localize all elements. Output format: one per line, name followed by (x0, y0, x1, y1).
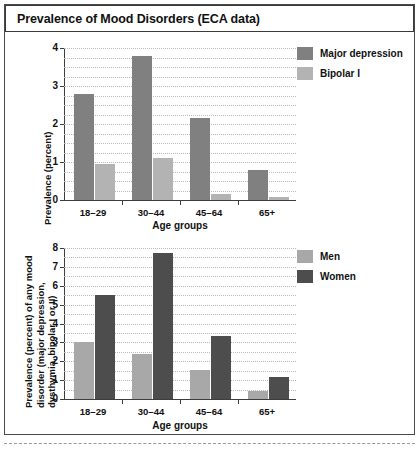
legend-chart-1: MenWomen (297, 250, 356, 290)
legend-chart-0: Major depressionBipolar I (297, 47, 403, 87)
figure-title-bar: Prevalence of Mood Disorders (ECA data) (5, 5, 414, 32)
y-tick-mark (60, 248, 64, 249)
bar (269, 197, 289, 200)
gridline (64, 124, 296, 125)
legend-label: Bipolar I (320, 68, 360, 79)
y-tick-label: 2 (42, 118, 58, 129)
gridline (64, 48, 296, 49)
legend-item: Major depression (297, 47, 403, 60)
x-tick-mark (122, 400, 123, 404)
x-category-label: 18–29 (63, 406, 123, 417)
y-tick-label: 3 (42, 336, 58, 347)
y-tick-label: 8 (42, 242, 58, 253)
y-tick-label: 1 (42, 374, 58, 385)
x-axis-title-chart-1: Age groups (64, 420, 296, 431)
y-tick-mark (60, 48, 64, 49)
x-tick-mark (180, 201, 181, 205)
y-tick-mark (60, 324, 64, 325)
y-axis-title-chart-0: Prevalence (percent) (42, 132, 54, 225)
y-tick-mark (60, 342, 64, 343)
y-tick-mark (60, 162, 64, 163)
legend-label: Major depression (320, 48, 403, 59)
x-category-label: 45–64 (179, 207, 239, 218)
legend-item: Bipolar I (297, 67, 403, 80)
y-tick-mark (60, 200, 64, 201)
y-tick-mark (60, 380, 64, 381)
x-category-label: 65+ (237, 207, 297, 218)
legend-swatch-icon (297, 47, 313, 60)
bar (269, 377, 289, 399)
plot-area-chart-1 (64, 248, 296, 400)
y-tick-label: 7 (42, 261, 58, 272)
y-tick-label: 1 (42, 156, 58, 167)
page-title: Prevalence of Mood Disorders (ECA data) (17, 12, 260, 26)
y-tick-label: 4 (42, 318, 58, 329)
y-tick-mark (60, 124, 64, 125)
bar (153, 253, 173, 399)
bar (132, 354, 152, 399)
y-tick-mark (60, 399, 64, 400)
legend-swatch-icon (297, 270, 313, 283)
bar (248, 391, 268, 399)
bar (95, 164, 115, 200)
y-tick-mark (60, 286, 64, 287)
gridline (64, 267, 296, 268)
gridline (64, 134, 296, 135)
x-category-label: 65+ (237, 406, 297, 417)
x-category-label: 18–29 (63, 207, 123, 218)
y-tick-mark (60, 361, 64, 362)
bar (211, 336, 231, 399)
gridline (64, 153, 296, 154)
x-axis-title-chart-0: Age groups (64, 220, 296, 231)
legend-item: Women (297, 270, 356, 283)
bar (153, 158, 173, 200)
gridline (64, 162, 296, 163)
legend-label: Women (320, 271, 356, 282)
gridline (64, 115, 296, 116)
bar (132, 56, 152, 200)
gridline (64, 248, 296, 249)
bar (190, 118, 210, 200)
y-tick-label: 5 (42, 299, 58, 310)
y-tick-label: 0 (42, 393, 58, 404)
x-tick-mark (122, 201, 123, 205)
x-category-label: 30–44 (121, 406, 181, 417)
y-tick-label: 4 (42, 42, 58, 53)
x-tick-mark (238, 400, 239, 404)
plot-area-chart-0 (64, 48, 296, 201)
bottom-divider (4, 443, 415, 444)
y-tick-label: 3 (42, 80, 58, 91)
y-tick-label: 6 (42, 280, 58, 291)
legend-swatch-icon (297, 250, 313, 263)
x-category-label: 30–44 (121, 207, 181, 218)
bar (74, 94, 94, 200)
gridline (64, 77, 296, 78)
bar (190, 370, 210, 399)
legend-swatch-icon (297, 67, 313, 80)
x-tick-mark (238, 201, 239, 205)
x-tick-mark (180, 400, 181, 404)
gridline (64, 67, 296, 68)
y-tick-mark (60, 305, 64, 306)
bar (248, 170, 268, 200)
y-tick-label: 2 (42, 355, 58, 366)
y-tick-label: 0 (42, 194, 58, 205)
figure-container: Prevalence of Mood Disorders (ECA data) … (0, 0, 419, 453)
bar (95, 295, 115, 399)
legend-label: Men (320, 251, 340, 262)
gridline (64, 96, 296, 97)
x-category-label: 45–64 (179, 406, 239, 417)
legend-item: Men (297, 250, 356, 263)
y-tick-mark (60, 86, 64, 87)
gridline (64, 286, 296, 287)
gridline (64, 58, 296, 59)
gridline (64, 105, 296, 106)
gridline (64, 257, 296, 258)
gridline (64, 143, 296, 144)
gridline (64, 276, 296, 277)
y-tick-mark (60, 267, 64, 268)
bar (74, 342, 94, 399)
bar (211, 194, 231, 200)
gridline (64, 86, 296, 87)
